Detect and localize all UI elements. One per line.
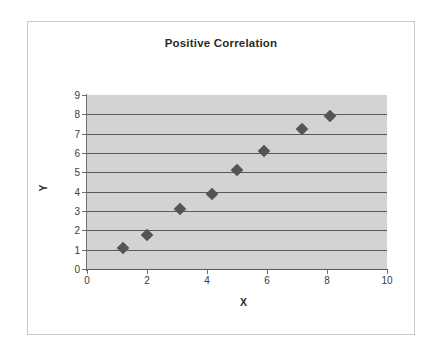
x-axis-tick [267,270,268,274]
y-axis-tick-label: 8 [58,109,80,120]
y-axis-tick-label: 9 [58,90,80,101]
y-axis-tick-label: 2 [58,225,80,236]
y-axis-tick [82,211,87,212]
y-axis-tick [82,153,87,154]
gridline-horizontal [87,114,387,115]
y-axis-tick-label: 4 [58,186,80,197]
x-axis-tick [87,270,88,274]
y-axis-tick-label: 7 [58,128,80,139]
x-axis-tick [387,270,388,274]
y-axis-tick [82,172,87,173]
gridline-horizontal [87,153,387,154]
x-axis-line [86,269,388,270]
y-axis-tick-label: 0 [58,264,80,275]
x-axis-tick-label: 0 [72,275,102,286]
y-axis-tick [82,95,87,96]
y-axis-line [86,94,87,271]
x-axis-tick-label: 8 [312,275,342,286]
gridline-horizontal [87,211,387,212]
y-axis-tick [82,230,87,231]
gridline-horizontal [87,192,387,193]
chart-figure-frame: Positive Correlation 0123456789 0246810 … [27,21,415,335]
x-axis-tick-label: 4 [192,275,222,286]
y-axis-tick-labels: 0123456789 [52,22,80,334]
chart-title: Positive Correlation [28,37,414,49]
y-axis-tick-label: 1 [58,244,80,255]
x-axis-tick [147,270,148,274]
plot-area [87,95,387,269]
gridline-horizontal [87,250,387,251]
y-axis-title: Y [37,184,49,191]
x-axis-tick-label: 6 [252,275,282,286]
y-axis-tick [82,192,87,193]
x-axis-tick [207,270,208,274]
y-axis-tick [82,134,87,135]
y-axis-tick [82,114,87,115]
x-axis-tick [327,270,328,274]
y-axis-tick-label: 6 [58,148,80,159]
x-axis-tick-label: 2 [132,275,162,286]
x-axis-title: X [28,296,414,308]
y-axis-tick-label: 5 [58,167,80,178]
gridline-horizontal [87,134,387,135]
y-axis-tick-label: 3 [58,206,80,217]
x-axis-tick-label: 10 [372,275,402,286]
gridline-horizontal [87,230,387,231]
y-axis-tick [82,250,87,251]
